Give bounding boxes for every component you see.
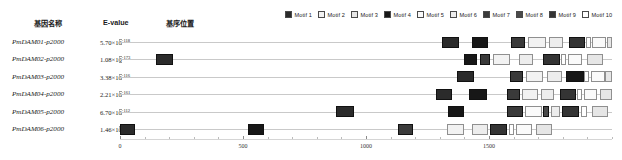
legend-label: Motif 5 xyxy=(427,12,445,18)
motif-block[interactable] xyxy=(510,71,524,82)
motif-block[interactable] xyxy=(525,106,542,117)
axis-minor-tick xyxy=(563,137,564,139)
motif-block[interactable] xyxy=(581,106,587,117)
track-start-marker-icon xyxy=(119,91,123,97)
motif-block[interactable] xyxy=(442,37,459,48)
motif-block[interactable] xyxy=(547,71,562,82)
motif-block[interactable] xyxy=(577,89,582,100)
legend-label: Motif 6 xyxy=(460,12,478,18)
legend-item-motif-1[interactable]: Motif 1 xyxy=(285,11,312,18)
legend-label: Motif 1 xyxy=(295,12,313,18)
motif-block[interactable] xyxy=(591,71,605,82)
legend-item-motif-10[interactable]: Motif 10 xyxy=(582,11,612,18)
axis-minor-tick xyxy=(587,137,588,139)
legend-item-motif-5[interactable]: Motif 5 xyxy=(417,11,444,18)
axis-tick-label: 1000 xyxy=(360,143,372,149)
motif-block[interactable] xyxy=(472,37,488,48)
legend-swatch-icon xyxy=(417,11,424,18)
legend-swatch-icon xyxy=(384,11,391,18)
gene-track-row[interactable]: PmDAM04-p20002.21×10-161 xyxy=(0,86,622,103)
gene-track-row[interactable]: PmDAM06-p20001.46×10-167 xyxy=(0,121,622,138)
column-header-gene-name: 基因名称 xyxy=(34,18,62,28)
gene-track-row[interactable]: PmDAM01-p20005.70×10-118 xyxy=(0,34,622,51)
legend-swatch-icon xyxy=(351,11,358,18)
motif-block[interactable] xyxy=(516,124,532,135)
motif-block[interactable] xyxy=(457,71,474,82)
motif-block[interactable] xyxy=(569,37,585,48)
legend-item-motif-4[interactable]: Motif 4 xyxy=(384,11,411,18)
motif-block[interactable] xyxy=(493,54,510,65)
motif-block[interactable] xyxy=(509,124,514,135)
motif-block[interactable] xyxy=(568,54,583,65)
motif-block[interactable] xyxy=(584,89,598,100)
motif-block[interactable] xyxy=(436,89,452,100)
motif-block[interactable] xyxy=(592,106,608,117)
legend-label: Motif 3 xyxy=(361,12,379,18)
track-baseline xyxy=(120,59,612,60)
gene-name-label: PmDAM06-p2000 xyxy=(12,125,98,133)
axis-minor-tick xyxy=(145,137,146,139)
motif-block[interactable] xyxy=(551,106,561,117)
motif-block[interactable] xyxy=(480,54,490,65)
gene-name-label: PmDAM02-p2000 xyxy=(12,55,98,63)
motif-block[interactable] xyxy=(541,89,555,100)
legend-label: Motif 4 xyxy=(394,12,412,18)
motif-block[interactable] xyxy=(605,71,612,82)
motif-block[interactable] xyxy=(447,124,464,135)
motif-block[interactable] xyxy=(549,37,563,48)
legend-item-motif-7[interactable]: Motif 7 xyxy=(483,11,510,18)
motif-block[interactable] xyxy=(560,89,576,100)
motif-block[interactable] xyxy=(543,54,560,65)
motif-track[interactable] xyxy=(120,104,612,121)
motif-block[interactable] xyxy=(543,106,549,117)
legend-item-motif-9[interactable]: Motif 9 xyxy=(549,11,576,18)
motif-block[interactable] xyxy=(522,89,538,100)
axis-minor-tick xyxy=(317,137,318,139)
axis-minor-tick xyxy=(538,137,539,139)
axis-tick-label: 0 xyxy=(119,143,122,149)
motif-block[interactable] xyxy=(519,54,534,65)
motif-block[interactable] xyxy=(507,89,519,100)
gene-name-label: PmDAM04-p2000 xyxy=(12,90,98,98)
gene-track-row[interactable]: PmDAM05-p20006.70×10-112 xyxy=(0,104,622,121)
motif-block[interactable] xyxy=(469,89,486,100)
motif-block[interactable] xyxy=(526,71,543,82)
motif-block[interactable] xyxy=(586,37,591,48)
motif-block[interactable] xyxy=(592,37,606,48)
motif-track[interactable] xyxy=(120,34,612,51)
motif-block[interactable] xyxy=(511,37,525,48)
legend-item-motif-3[interactable]: Motif 3 xyxy=(351,11,378,18)
motif-block[interactable] xyxy=(561,54,566,65)
motif-block[interactable] xyxy=(336,106,353,117)
motif-track[interactable] xyxy=(120,69,612,86)
legend-item-motif-2[interactable]: Motif 2 xyxy=(318,11,345,18)
legend-item-motif-8[interactable]: Motif 8 xyxy=(516,11,543,18)
axis-minor-tick xyxy=(218,137,219,139)
motif-block[interactable] xyxy=(490,124,507,135)
motif-block[interactable] xyxy=(528,37,545,48)
axis-major-tick xyxy=(366,136,367,139)
motif-block[interactable] xyxy=(536,124,552,135)
axis-minor-tick xyxy=(391,137,392,139)
motif-block[interactable] xyxy=(562,106,579,117)
motif-block[interactable] xyxy=(120,124,135,135)
legend-swatch-icon xyxy=(285,11,292,18)
motif-block[interactable] xyxy=(156,54,173,65)
motif-block[interactable] xyxy=(398,124,413,135)
motif-block[interactable] xyxy=(584,71,589,82)
motif-distribution-figure: 基因名称 E-value 基序位置 Motif 1Motif 2Motif 3M… xyxy=(0,0,622,160)
gene-track-row[interactable]: PmDAM02-p20001.08×10-173 xyxy=(0,51,622,68)
motif-block[interactable] xyxy=(464,54,476,65)
motif-block[interactable] xyxy=(607,37,612,48)
legend-item-motif-6[interactable]: Motif 6 xyxy=(450,11,477,18)
motif-track[interactable] xyxy=(120,86,612,103)
motif-block[interactable] xyxy=(248,124,264,135)
motif-block[interactable] xyxy=(600,89,612,100)
motif-block[interactable] xyxy=(587,54,603,65)
motif-block[interactable] xyxy=(566,71,583,82)
motif-block[interactable] xyxy=(507,106,523,117)
motif-track[interactable] xyxy=(120,51,612,68)
gene-track-row[interactable]: PmDAM03-p20003.38×10-116 xyxy=(0,69,622,86)
motif-block[interactable] xyxy=(472,124,488,135)
motif-block[interactable] xyxy=(448,106,464,117)
